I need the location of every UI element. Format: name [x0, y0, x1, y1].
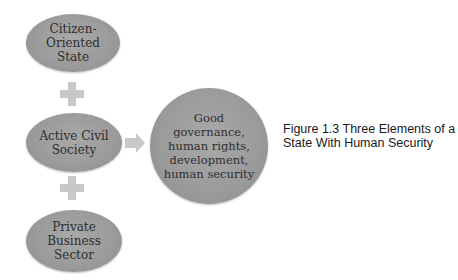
figure-caption: Figure 1.3 Three Elements of a State Wit…	[283, 122, 458, 150]
node-label: Private Business Sector	[47, 220, 101, 262]
node-label: Active Civil Society	[39, 129, 108, 157]
node-label: Good governance, human rights, developme…	[164, 111, 254, 181]
arrow-right-icon	[125, 133, 145, 153]
node-label: Citizen- Oriented State	[46, 22, 100, 64]
node-citizen-oriented-state: Citizen- Oriented State	[26, 14, 120, 72]
node-private-business-sector: Private Business Sector	[26, 210, 122, 272]
node-active-civil-society: Active Civil Society	[26, 113, 122, 172]
node-outcome: Good governance, human rights, developme…	[150, 88, 268, 204]
plus-icon	[60, 82, 84, 106]
plus-icon	[60, 176, 84, 200]
